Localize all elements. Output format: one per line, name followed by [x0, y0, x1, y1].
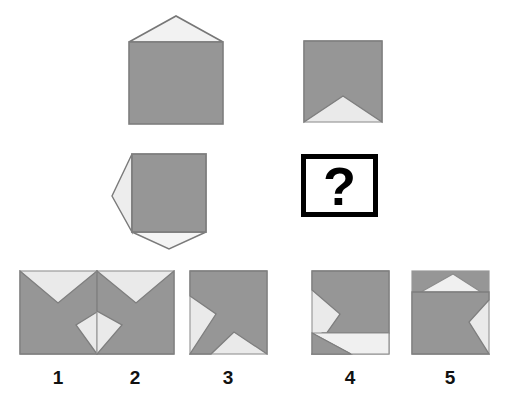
answer-option-4-label: 4	[330, 367, 370, 389]
puzzle-canvas: ? 1 2 3 4	[0, 0, 512, 406]
shape-square-with-bottom-notch	[303, 40, 383, 123]
triangle-top-outward	[129, 16, 223, 42]
answer-option-3-label: 3	[208, 367, 248, 389]
shape-option-2	[96, 270, 175, 355]
answer-option-1-label: 1	[38, 367, 78, 389]
matrix-cell-top-left	[128, 14, 224, 126]
square-body	[132, 154, 206, 232]
shape-option-3	[189, 270, 268, 355]
matrix-cell-top-right	[303, 40, 383, 123]
answer-option-2-label: 2	[115, 367, 155, 389]
square-body	[129, 42, 223, 124]
answer-option-5-label: 5	[430, 367, 470, 389]
answer-option-2[interactable]	[96, 270, 175, 359]
shape-option-1	[19, 270, 98, 355]
matrix-cell-middle-left	[110, 152, 225, 250]
answer-option-1[interactable]	[19, 270, 98, 359]
missing-answer-box[interactable]: ?	[301, 154, 378, 217]
shape-square-with-left-and-bottom-triangles	[110, 152, 225, 250]
shape-option-4	[311, 270, 390, 355]
shape-option-5	[411, 270, 490, 355]
answer-option-4[interactable]	[311, 270, 390, 359]
answer-option-5[interactable]	[411, 270, 490, 359]
triangle-bottom-outward	[132, 232, 206, 249]
answer-option-3[interactable]	[189, 270, 268, 359]
shape-square-with-upward-triangle	[128, 14, 224, 126]
question-mark-glyph: ?	[323, 159, 356, 213]
triangle-left-outward	[112, 154, 132, 232]
